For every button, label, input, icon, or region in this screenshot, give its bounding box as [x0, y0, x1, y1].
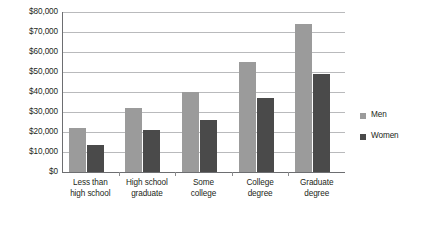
axis-baseline: [62, 172, 345, 173]
legend-label: Men: [371, 111, 387, 119]
bar-group: [62, 12, 119, 172]
bar-women-3: [200, 120, 217, 172]
legend-item-women[interactable]: Women: [360, 129, 423, 144]
bar-group: [288, 12, 345, 172]
bar-women-4: [257, 98, 274, 172]
y-tick-label: $50,000: [0, 68, 58, 76]
y-tick-label: $10,000: [0, 148, 58, 156]
y-tick-label: $80,000: [0, 8, 58, 16]
chart-legend: MenWomen: [360, 108, 423, 150]
x-tick: [175, 172, 176, 176]
bar-group: [119, 12, 176, 172]
y-axis: $0$10,000$20,000$30,000$40,000$50,000$60…: [0, 12, 58, 172]
bar-men-3: [182, 92, 199, 172]
bar-men-1: [69, 128, 86, 172]
bar-women-2: [143, 130, 160, 172]
x-category-label: Graduatedegree: [288, 178, 345, 199]
bar-women-5: [313, 74, 330, 172]
bar-women-1: [87, 145, 104, 172]
y-tick-label: $0: [0, 168, 58, 176]
legend-swatch-icon: [360, 113, 366, 119]
x-tick: [232, 172, 233, 176]
bar-men-2: [125, 108, 142, 172]
x-axis: Less thanhigh schoolHigh schoolgraduateS…: [62, 178, 345, 220]
bars-layer: [62, 12, 345, 172]
x-category-label: Collegedegree: [232, 178, 289, 199]
plot-area: [62, 12, 345, 172]
bar-group: [232, 12, 289, 172]
y-tick-label: $60,000: [0, 48, 58, 56]
bar-group: [175, 12, 232, 172]
y-tick-label: $30,000: [0, 108, 58, 116]
y-tick-label: $40,000: [0, 88, 58, 96]
legend-label: Women: [371, 132, 399, 140]
x-category-label: Less thanhigh school: [62, 178, 119, 199]
y-tick-label: $20,000: [0, 128, 58, 136]
bar-men-5: [295, 24, 312, 172]
x-tick: [119, 172, 120, 176]
y-tick-label: $70,000: [0, 28, 58, 36]
legend-swatch-icon: [360, 134, 366, 140]
bar-men-4: [239, 62, 256, 172]
x-tick: [288, 172, 289, 176]
legend-item-men[interactable]: Men: [360, 108, 423, 123]
x-category-label: High schoolgraduate: [119, 178, 176, 199]
x-category-label: Somecollege: [175, 178, 232, 199]
bar-chart: $0$10,000$20,000$30,000$40,000$50,000$60…: [0, 0, 423, 230]
